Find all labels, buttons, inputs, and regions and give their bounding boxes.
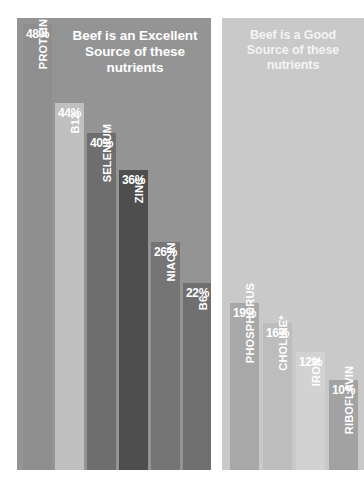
panel-excellent-source: 48% PROTEIN 44% B12 40% SELENIUM 36% bbox=[17, 18, 211, 470]
nutrient-infographic: 48% PROTEIN 44% B12 40% SELENIUM 36% bbox=[0, 0, 364, 485]
panel-good-source: 19% PHOSPHORUS 16% CHOLINE* 12% IRON 10% bbox=[222, 18, 364, 470]
bar-selenium-label: SELENIUM bbox=[102, 124, 113, 182]
bar-iron-label: IRON bbox=[311, 358, 322, 386]
bar-choline-label: CHOLINE* bbox=[278, 315, 289, 370]
bar-b6-label: B6 bbox=[198, 296, 209, 310]
bar-protein-label: PROTEIN bbox=[38, 19, 49, 69]
bar-riboflavin-label: RIBOFLAVIN bbox=[344, 366, 355, 434]
bar-riboflavin: 10% RIBOFLAVIN bbox=[329, 380, 358, 470]
bar-choline: 16% CHOLINE* bbox=[263, 323, 292, 470]
bar-group-good: 19% PHOSPHORUS 16% CHOLINE* 12% IRON 10% bbox=[222, 18, 364, 470]
panel-excellent-title: Beef is an Excellent Source of these nut… bbox=[62, 28, 208, 76]
bar-b12: 44% B12 bbox=[55, 103, 84, 470]
bar-zinc: 36% ZINC bbox=[119, 170, 148, 470]
bar-niacin: 26% NIACIN bbox=[151, 242, 180, 470]
bar-niacin-label: NIACIN bbox=[166, 242, 177, 281]
bar-group-excellent: 48% PROTEIN 44% B12 40% SELENIUM 36% bbox=[17, 18, 211, 470]
bar-phosphorus: 19% PHOSPHORUS bbox=[230, 303, 259, 470]
bar-zinc-label: ZINC bbox=[134, 177, 145, 203]
bar-iron: 12% IRON bbox=[296, 352, 325, 470]
bar-phosphorus-label: PHOSPHORUS bbox=[245, 283, 256, 363]
bar-selenium: 40% SELENIUM bbox=[87, 133, 116, 470]
bar-protein: 48% PROTEIN bbox=[23, 24, 52, 470]
panel-good-title: Beef is a Good Source of these nutrients bbox=[228, 28, 358, 72]
bar-b12-label: B12 bbox=[70, 113, 81, 134]
bar-b6: 22% B6 bbox=[183, 283, 211, 470]
